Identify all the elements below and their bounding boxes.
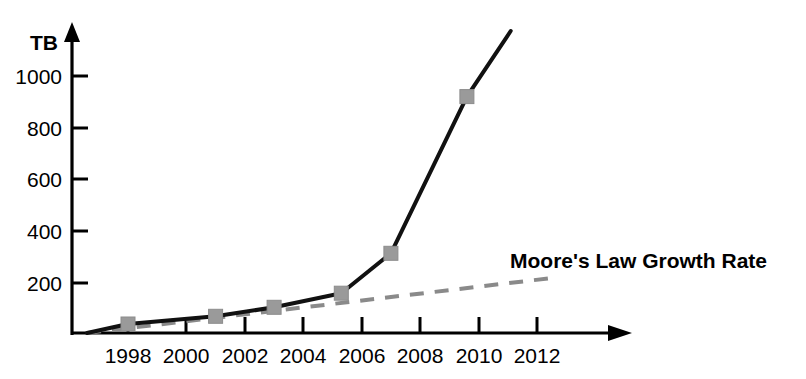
x-axis-arrow (608, 325, 632, 341)
x-tick-label-2008: 2008 (397, 344, 444, 367)
series-data-growth-line (87, 31, 511, 333)
y-tick-label-200: 200 (27, 272, 62, 295)
data-point-marker (384, 246, 398, 260)
chart-plot-area: TB 1000 800 600 400 200 (0, 0, 806, 379)
x-tick-label-2002: 2002 (222, 344, 269, 367)
y-tick-label-400: 400 (27, 220, 62, 243)
y-tick-label-600: 600 (27, 168, 62, 191)
x-tick-label-2012: 2012 (514, 344, 561, 367)
moore-law-annotation-label: Moore's Law Growth Rate (510, 249, 767, 272)
x-tick-label-2000: 2000 (163, 344, 210, 367)
y-axis-label: TB (30, 31, 58, 54)
y-tick-label-800: 800 (27, 117, 62, 140)
data-point-marker (267, 300, 281, 314)
series-moore-law-line (87, 278, 554, 333)
x-tick-label-1998: 1998 (105, 344, 152, 367)
y-axis-arrow (64, 22, 80, 42)
x-axis (72, 325, 632, 341)
x-tick-label-2004: 2004 (280, 344, 327, 367)
data-point-marker (334, 286, 348, 300)
x-axis-tick-labels: 1998 2000 2002 2004 2006 2008 2010 2012 (105, 344, 561, 367)
data-point-marker (121, 317, 135, 331)
data-point-marker (460, 90, 474, 104)
x-tick-label-2010: 2010 (456, 344, 503, 367)
y-tick-label-1000: 1000 (15, 65, 62, 88)
y-axis-tick-labels: 1000 800 600 400 200 (15, 65, 62, 295)
x-tick-label-2006: 2006 (339, 344, 386, 367)
chart-container: TB 1000 800 600 400 200 (0, 0, 806, 379)
y-axis-ticks (72, 76, 88, 283)
data-point-marker (209, 309, 223, 323)
